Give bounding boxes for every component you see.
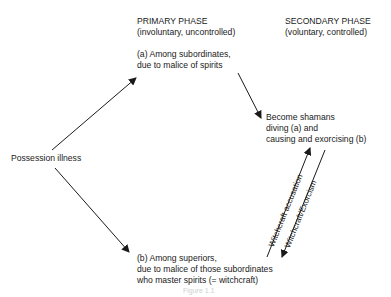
- arrow-origin-to-b: [55, 168, 129, 252]
- secondary-phase-subtitle: (voluntary, controlled): [285, 27, 367, 38]
- node-shamans-line3: causing and exorcising (b): [266, 134, 366, 145]
- arrow-a-to-shamans: [238, 73, 261, 118]
- node-shamans-line1: Become shamans: [266, 112, 335, 123]
- node-shamans-line2: diving (a) and: [266, 123, 318, 134]
- node-b-line1: (b) Among superiors,: [137, 253, 217, 264]
- arrow-origin-to-a: [52, 78, 136, 150]
- primary-phase-subtitle: (involuntary, uncontrolled): [137, 27, 235, 38]
- node-possession-illness: Possession illness: [11, 153, 81, 164]
- node-b-line3: who master spirits (= witchcraft): [137, 275, 258, 286]
- node-a-line1: (a) Among subordinates,: [137, 49, 231, 60]
- node-a-line2: due to malice of spirits: [137, 60, 223, 71]
- primary-phase-title: PRIMARY PHASE: [137, 16, 207, 27]
- node-b-line2: due to malice of those subordinates: [137, 264, 273, 275]
- figure-caption: Figure 1.1: [183, 287, 215, 294]
- secondary-phase-title: SECONDARY PHASE: [285, 16, 371, 27]
